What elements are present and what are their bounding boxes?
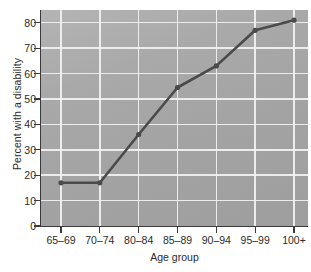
x-axis-tick: [99, 227, 100, 233]
y-axis-tick-label: 10: [14, 196, 36, 206]
y-axis-tick-label: 80: [14, 18, 36, 28]
data-point-marker: [214, 63, 219, 68]
y-axis-tick-label: 50: [14, 94, 36, 104]
x-axis-tick: [293, 227, 294, 233]
plot-area: [41, 10, 308, 226]
data-point-marker: [97, 180, 102, 185]
x-axis-tick-label: 100+: [269, 234, 311, 246]
data-point-marker: [291, 18, 296, 23]
x-axis-title: Age group: [41, 251, 308, 263]
x-axis-tick: [177, 227, 178, 233]
y-axis-line: [40, 10, 41, 227]
y-axis-tick-label: 60: [14, 69, 36, 79]
series-polyline: [61, 20, 294, 183]
data-point-marker: [136, 132, 141, 137]
series-markers: [58, 18, 296, 186]
y-axis-tick-label: 0: [14, 221, 36, 231]
x-axis-tick: [60, 227, 61, 233]
y-axis-tick-labels: 01020304050607080: [14, 10, 36, 226]
x-axis-tick: [255, 227, 256, 233]
data-point-marker: [175, 85, 180, 90]
x-axis-tick: [138, 227, 139, 233]
y-axis-tick-label: 20: [14, 170, 36, 180]
data-point-marker: [253, 28, 258, 33]
y-axis-tick-label: 40: [14, 119, 36, 129]
x-axis-tick-labels: 65–6970–7480–8485–8990–9495–99100+: [41, 234, 308, 248]
x-axis-line: [40, 226, 308, 227]
y-axis-tick-label: 30: [14, 145, 36, 155]
data-series-line: [41, 10, 308, 226]
x-axis-tick: [216, 227, 217, 233]
data-point-marker: [58, 180, 63, 185]
y-axis-tick-label: 70: [14, 43, 36, 53]
line-chart: Percent with a disability 01020304050607…: [0, 0, 311, 272]
